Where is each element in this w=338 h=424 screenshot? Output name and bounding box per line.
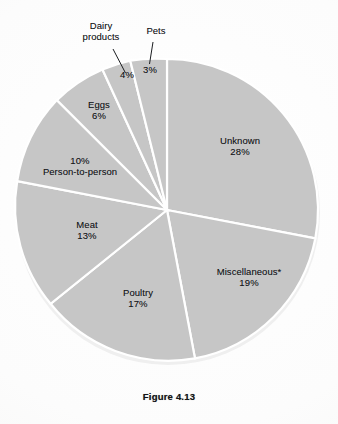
pie-label-dairy-products-line1: Dairy [83,20,120,31]
pie-label-poultry: Poultry 17% [123,287,153,310]
pie-label-dairy-products-value: 4% [120,69,134,80]
pie-label-unknown-value: 28% [220,146,260,157]
pie-label-pets-value: 3% [143,64,157,75]
pie-label-eggs: Eggs 6% [88,99,110,122]
pie-label-dairy-products-line2: products [83,31,120,42]
pie-label-meat: Meat 13% [76,219,97,242]
pie-label-person-to-person-name: Person-to-person [43,166,117,177]
pie-chart [0,0,338,424]
pie-label-dairy-products-name: Dairy products [83,20,120,43]
figure-4-13: Unknown 28% Miscellaneous* 19% Poultry 1… [0,0,338,424]
pie-label-miscellaneous-name: Miscellaneous* [217,266,282,277]
pie-label-dairy-products-value-wrap: 4% [120,69,134,80]
pie-label-poultry-value: 17% [123,298,153,309]
pie-label-eggs-name: Eggs [88,99,110,110]
pie-label-pets-name-wrap: Pets [146,25,165,36]
pie-label-unknown: Unknown 28% [220,135,260,158]
pie-slices [15,59,318,361]
pie-label-meat-name: Meat [76,219,97,230]
figure-caption: Figure 4.13 [0,391,338,402]
pie-label-person-to-person: 10% Person-to-person [43,155,117,178]
pie-label-miscellaneous: Miscellaneous* 19% [217,266,282,289]
pie-label-pets-name: Pets [146,25,165,36]
pie-label-pets-value-wrap: 3% [143,64,157,75]
pie-label-meat-value: 13% [76,230,97,241]
pie-label-eggs-value: 6% [88,110,110,121]
pie-label-unknown-name: Unknown [220,135,260,146]
pie-label-person-to-person-value: 10% [43,155,117,166]
pie-label-miscellaneous-value: 19% [217,277,282,288]
pie-label-poultry-name: Poultry [123,287,153,298]
